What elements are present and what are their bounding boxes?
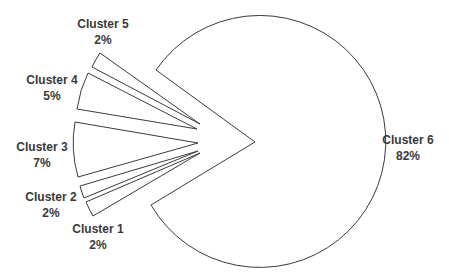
label-cluster-6-pct: 82% bbox=[396, 149, 420, 163]
label-cluster-5-pct: 2% bbox=[94, 33, 112, 47]
label-cluster-5-name: Cluster 5 bbox=[77, 17, 129, 31]
slice-cluster-3 bbox=[73, 122, 198, 177]
pie-chart: Cluster 5 2% Cluster 4 5% Cluster 3 7% C… bbox=[0, 0, 449, 279]
label-cluster-2-name: Cluster 2 bbox=[25, 190, 77, 204]
label-cluster-3-name: Cluster 3 bbox=[16, 140, 68, 154]
label-cluster-1-pct: 2% bbox=[89, 238, 107, 252]
label-cluster-4-name: Cluster 4 bbox=[26, 73, 78, 87]
label-cluster-4-pct: 5% bbox=[43, 89, 61, 103]
label-cluster-1-name: Cluster 1 bbox=[72, 222, 124, 236]
label-cluster-3-pct: 7% bbox=[33, 156, 51, 170]
label-cluster-6-name: Cluster 6 bbox=[382, 133, 434, 147]
label-cluster-2-pct: 2% bbox=[42, 206, 60, 220]
